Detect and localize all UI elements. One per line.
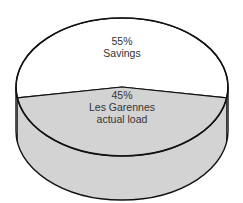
pie-chart-3d: 55% Savings 45% Les Garennes actual load (0, 0, 243, 203)
slice-label-savings-pct: 55% (111, 35, 132, 47)
slice-label-load-pct: 45% (111, 89, 132, 101)
slice-label-savings-name: Savings (103, 47, 140, 59)
slice-label-load-name-1: Les Garennes (89, 101, 155, 113)
slice-label-load-name-2: actual load (97, 113, 148, 125)
